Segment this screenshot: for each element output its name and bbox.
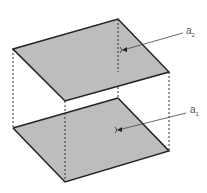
prism-diagram (0, 0, 207, 193)
label-a1: a1 (190, 104, 199, 117)
lower-plane (13, 98, 169, 182)
upper-plane (13, 19, 169, 101)
label-a2: a2 (186, 25, 195, 38)
